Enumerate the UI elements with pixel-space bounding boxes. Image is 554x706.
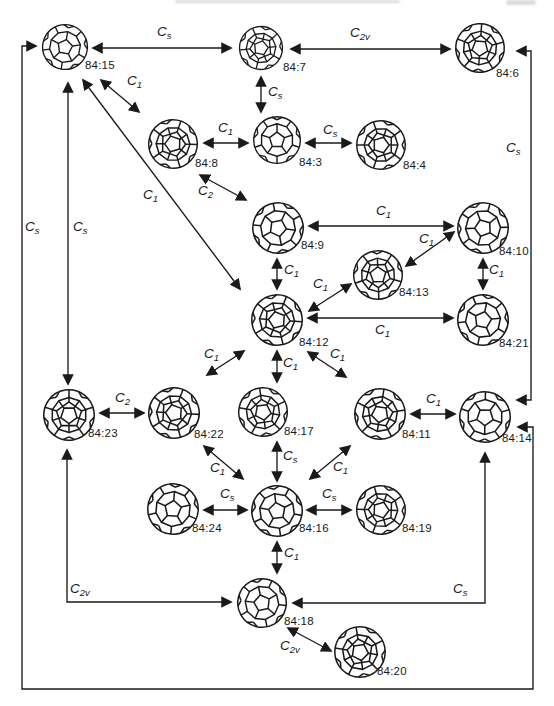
- fullerene-icon: [41, 23, 89, 71]
- isomer-label: 84:4: [403, 160, 426, 172]
- fullerene-icon: [353, 387, 407, 441]
- isomer-label: 84:6: [496, 68, 519, 80]
- fullerene-icon: [251, 201, 305, 255]
- symmetry-label: Cs: [25, 220, 40, 234]
- symmetry-label: Cs: [506, 141, 521, 155]
- symmetry-label: Cs: [220, 487, 235, 501]
- symmetry-label: C1: [283, 356, 298, 370]
- isomer-label: 84:20: [377, 666, 407, 678]
- isomer-label: 84:21: [499, 338, 529, 350]
- symmetry-label: C1: [210, 461, 225, 475]
- fullerene-icon: [237, 386, 289, 438]
- symmetry-label: C1: [313, 277, 328, 291]
- symmetry-label: Cs: [268, 85, 283, 99]
- isomer-label: 84:8: [195, 158, 218, 170]
- isomer-label: 84:9: [301, 240, 324, 252]
- isomer-label: 84:17: [284, 426, 314, 438]
- isomer-label: 84:13: [399, 287, 429, 299]
- fullerene-icon: [355, 484, 407, 536]
- fullerene-icon: [147, 118, 199, 170]
- fullerene-icon: [250, 484, 304, 538]
- symmetry-label: C2v: [350, 26, 370, 40]
- symmetry-label: C2: [198, 184, 213, 198]
- isomer-label: 84:10: [499, 246, 529, 258]
- isomer-label: 84:19: [402, 523, 432, 535]
- isomer-label: 84:12: [299, 337, 329, 349]
- symmetry-label: Cs: [453, 582, 468, 596]
- fullerene-icon: [238, 25, 284, 71]
- isomer-label: 84:7: [283, 62, 306, 74]
- fullerene-icon: [147, 386, 201, 440]
- symmetry-label: C1: [333, 460, 348, 474]
- isomer-label: 84:3: [299, 157, 322, 169]
- isomer-label: 84:15: [85, 60, 115, 72]
- symmetry-label: C1: [330, 347, 345, 361]
- symmetry-label: C1: [489, 263, 504, 277]
- fullerene-icon: [355, 119, 407, 171]
- fullerene-icon: [236, 577, 288, 629]
- symmetry-label: C2: [115, 391, 130, 405]
- symmetry-label: Cs: [322, 487, 337, 501]
- symmetry-label: C1: [204, 347, 219, 361]
- symmetry-label: C2v: [280, 639, 300, 653]
- symmetry-label: C1: [376, 204, 391, 218]
- symmetry-label: C1: [284, 546, 299, 560]
- scanned-paper-page: 84:1584:784:684:884:384:484:984:1384:108…: [0, 0, 554, 706]
- isomer-label: 84:22: [194, 429, 224, 441]
- isomer-label: 84:16: [299, 523, 329, 535]
- fullerene-icon: [250, 293, 304, 347]
- symmetry-label: C1: [426, 392, 441, 406]
- symmetry-label: C2v: [70, 582, 90, 596]
- isomer-label: 84:11: [402, 429, 431, 441]
- isomer-label: 84:18: [284, 616, 314, 628]
- symmetry-label: Cs: [283, 449, 298, 463]
- symmetry-label: C1: [143, 188, 158, 202]
- fullerene-icon: [252, 115, 302, 165]
- symmetry-label: C1: [284, 263, 299, 277]
- symmetry-label: Cs: [323, 123, 338, 137]
- isomer-label: 84:14: [502, 433, 532, 445]
- symmetry-label: Cs: [73, 220, 88, 234]
- fullerene-icon: [352, 249, 404, 301]
- isomer-label: 84:24: [192, 523, 222, 535]
- figure-stage: 84:1584:784:684:884:384:484:984:1384:108…: [0, 0, 554, 706]
- symmetry-label: C1: [375, 323, 390, 337]
- symmetry-label: Cs: [157, 25, 172, 39]
- symmetry-label: C1: [218, 121, 233, 135]
- symmetry-label: C1: [127, 74, 142, 88]
- symmetry-label: C1: [419, 232, 434, 246]
- isomer-label: 84:23: [88, 428, 118, 440]
